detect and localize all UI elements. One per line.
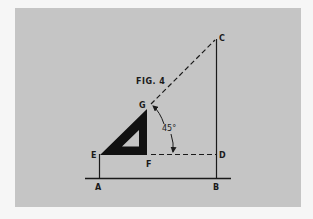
point-label-a: A <box>95 183 102 192</box>
point-label-g: G <box>139 101 146 110</box>
geometry-diagram: FIG. 4 45° C G E F D A B <box>0 0 313 219</box>
angle-arc-upper <box>153 106 164 124</box>
set-square-triangle <box>100 109 147 155</box>
point-label-b: B <box>213 183 219 192</box>
point-label-f: F <box>146 160 151 169</box>
figure-page: FIG. 4 45° C G E F D A B <box>0 0 313 219</box>
angle-label: 45° <box>162 124 176 133</box>
angle-arc-lower <box>171 134 173 152</box>
dashed-line-gc <box>151 40 215 104</box>
point-label-d: D <box>219 151 226 160</box>
point-label-e: E <box>91 151 96 160</box>
point-label-c: C <box>219 34 225 43</box>
figure-title: FIG. 4 <box>136 77 165 86</box>
